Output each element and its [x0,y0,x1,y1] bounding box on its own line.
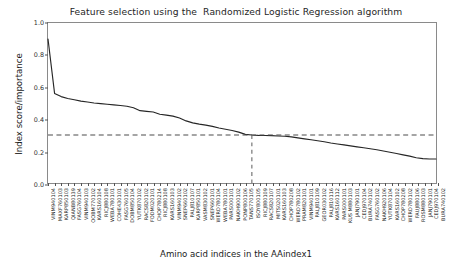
x-tick-label: CEDJ970104 [433,188,439,219]
x-tick-mark [266,183,267,186]
x-tick-mark [299,183,300,186]
x-tick-mark [240,183,241,186]
x-tick-label: VINM940101 [308,188,314,220]
x-tick-mark [352,183,353,186]
x-tick-mark [332,183,333,186]
x-tick-mark [174,183,175,186]
x-tick-label: PRAM820101 [301,188,307,221]
x-tick-label: PONP800106 [242,188,248,221]
x-tick-mark [286,183,287,186]
x-tick-label: FAUJ880106 [414,188,420,218]
x-tick-label: YUTK870104 [387,188,393,220]
x-tick-label: VASM830102 [202,188,208,221]
x-tick-label: JANJ790101 [354,188,360,217]
x-tick-mark [359,183,360,186]
x-tick-label: RICJ880109 [262,188,268,217]
y-tick-label: 0.8 [34,51,44,59]
x-tick-label: PALJ810109 [314,188,320,217]
x-tick-mark [312,183,313,186]
x-tick-label: KARS160104 [96,188,102,220]
x-tick-label: PARS000101 [228,188,234,220]
x-tick-mark [141,183,142,186]
x-tick-label: BURA740102 [440,188,446,221]
x-tick-label: FASG760105 [123,188,129,220]
x-tick-mark [88,183,89,186]
x-tick-label: MITS020101 [275,188,281,219]
x-tick-mark [339,183,340,186]
x-tick-mark [55,183,56,186]
x-tick-label: VINM940104 [50,188,56,220]
chart-title: Feature selection using the Randomized L… [0,6,472,17]
x-tick-label: WERD780104 [215,188,221,223]
x-tick-label: COHE430101 [116,188,122,221]
x-tick-label: KARP850103 [63,188,69,220]
x-tick-mark [180,183,181,186]
x-tick-mark [193,183,194,186]
x-tick-mark [74,183,75,186]
x-tick-label: WEBA780101 [109,188,115,222]
x-tick-mark [147,183,148,186]
x-tick-mark [379,183,380,186]
x-tick-mark [167,183,168,186]
x-tick-mark [94,183,95,186]
x-tick-label: RICJ880108 [162,188,168,217]
y-tick-label: 0.6 [34,84,44,92]
x-tick-label: CHOP780208 [400,188,406,221]
x-tick-label: VINM940103 [83,188,89,220]
x-tick-label: SNEP660101 [209,188,215,220]
x-tick-label: KARS160112 [334,188,340,220]
x-tick-mark [253,183,254,186]
x-tick-label: ISOY800105 [255,188,261,218]
x-tick-mark [213,183,214,186]
x-tick-mark [101,183,102,186]
x-tick-mark [306,183,307,186]
y-tick-label: 0.0 [34,181,44,189]
x-tick-label: OOBM770102 [90,188,96,223]
x-tick-label: FODM020101 [149,188,155,222]
x-tick-label: WERD780102 [407,188,413,223]
x-tick-label: FASG760102 [374,188,380,220]
x-tick-label: SNEP660102 [182,188,188,220]
x-tick-mark [233,183,234,186]
x-tick-label: MAXF760103 [57,188,63,221]
x-tick-label: YUTK870102 [136,188,142,220]
x-tick-label: KARP850101 [195,188,201,220]
x-tick-mark [425,183,426,186]
x-tick-label: BURA740102 [367,188,373,221]
x-tick-label: PALJ810116 [328,188,334,217]
y-tick-label: 0.2 [34,149,44,157]
x-tick-label: DOBM850104 [129,188,135,223]
x-tick-mark [398,183,399,186]
x-tick-mark [385,183,386,186]
x-tick-mark [293,183,294,186]
x-tick-label: CHOP780214 [156,188,162,221]
x-tick-label: KARS160103 [281,188,287,220]
x-tick-label: RICJ880108 [103,188,109,217]
figure: Feature selection using the Randomized L… [0,0,472,265]
x-tick-label: CEDJ970104 [361,188,367,219]
x-tick-label: TANS770105 [248,188,254,220]
line-series [48,39,436,159]
x-tick-label: RACS820107 [268,188,274,220]
x-tick-mark [81,183,82,186]
x-tick-mark [61,183,62,186]
x-tick-label: WERD780102 [295,188,301,223]
x-tick-mark [319,183,320,186]
score-curve [48,23,436,183]
x-tick-label: CHOP780208 [288,188,294,221]
x-tick-label: JANJ790101 [427,188,433,217]
x-tick-label: NAKH920106 [381,188,387,221]
x-tick-mark [431,183,432,186]
x-tick-mark [405,183,406,186]
x-tick-mark [326,183,327,186]
x-tick-mark [226,183,227,186]
x-tick-label: QIANB80139 [70,188,76,220]
x-tick-mark [107,183,108,186]
x-tick-label: ROSM880103 [420,188,426,222]
x-tick-mark [220,183,221,186]
x-tick-mark [154,183,155,186]
x-axis-label: Amino acid indices in the AAindex1 [0,249,472,259]
x-tick-label: WEBA780101 [222,188,228,222]
x-tick-mark [260,183,261,186]
x-tick-label: KUS M880103 [347,188,353,223]
